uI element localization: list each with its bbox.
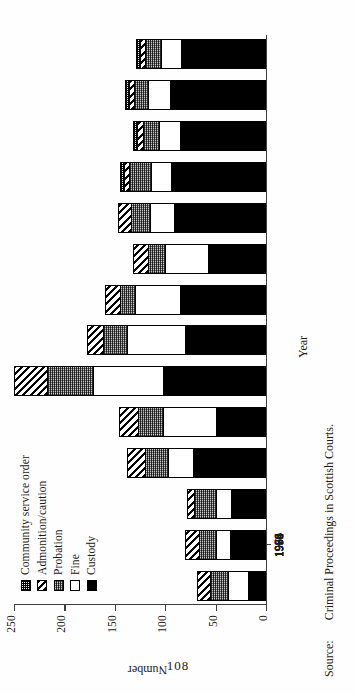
legend-item-2: Probation (51, 455, 67, 591)
bar-segment-probation (194, 489, 215, 519)
legend-item-4: Custody (84, 455, 100, 591)
page-number: 108 (0, 658, 356, 674)
bar-segment-custody (174, 203, 266, 233)
y-tick-label-200: 200 (56, 615, 68, 633)
bar-segment-probation (210, 571, 228, 601)
y-tick-label-50: 50 (208, 615, 220, 627)
legend-swatch-probation (54, 580, 64, 591)
bar-segment-fine (165, 244, 207, 274)
source-text: Criminal Proceedings in Scottish Courts. (322, 424, 336, 620)
bar-segment-probation (138, 407, 163, 437)
bar-segment-probation (134, 80, 148, 110)
y-tick-200: 200 (64, 605, 65, 611)
bar-segment-custody (231, 489, 266, 519)
bar-segment-admonition (187, 489, 194, 519)
bar-segment-custody (208, 244, 266, 274)
bar-segment-admonition (127, 448, 145, 478)
bar-segment-probation (143, 121, 159, 151)
y-tick-50: 50 (216, 605, 217, 611)
bar-segment-custody (180, 121, 266, 151)
bar-segment-probation (145, 448, 168, 478)
bar-segment-fine (150, 203, 174, 233)
bar-segment-admonition (133, 244, 148, 274)
bar-segment-fine (216, 489, 231, 519)
bar-segment-custody (193, 448, 266, 478)
x-axis-line (266, 35, 267, 605)
bar-segment-admonition (185, 530, 199, 560)
bar-segment-custody (180, 285, 266, 315)
legend-swatch-admonition (37, 580, 47, 591)
bar-1994 (14, 39, 266, 69)
bar-1970 (14, 366, 266, 396)
bar-segment-custody (170, 80, 266, 110)
legend-label-3: Fine (68, 554, 84, 575)
bar-segment-fine (168, 448, 193, 478)
rotated-figure-wrapper: 050100150200250 195019541958196219661970… (8, 17, 348, 677)
bar-segment-admonition (14, 366, 47, 396)
y-tick-0: 0 (266, 605, 267, 611)
bar-segment-probation (47, 366, 92, 396)
legend-item-0: Community service order (18, 455, 34, 591)
legend-swatch-cso (21, 580, 31, 591)
bar-segment-admonition (87, 325, 103, 355)
legend-label-2: Probation (51, 529, 67, 575)
y-tick-150: 150 (115, 605, 116, 611)
bar-segment-fine (163, 407, 215, 437)
x-tick-1994 (266, 544, 271, 545)
bar-segment-custody (248, 571, 266, 601)
bar-1990 (14, 162, 266, 192)
legend-label-1: Admonition/caution (35, 481, 51, 575)
bar-segment-custody (181, 39, 266, 69)
y-axis-line (14, 604, 266, 605)
x-tick-label-1994: 1994 (274, 533, 286, 557)
bar-segment-admonition (197, 571, 209, 601)
bar-segment-custody (216, 407, 266, 437)
x-axis-title: Year (296, 17, 311, 677)
bar-segment-custody (185, 325, 266, 355)
bar-segment-custody (230, 530, 266, 560)
bar-1982 (14, 244, 266, 274)
book-page: 050100150200250 195019541958196219661970… (0, 0, 356, 694)
legend-label-0: Community service order (18, 455, 34, 575)
chart-legend: Community service orderAdmonition/cautio… (18, 455, 101, 591)
bar-1986 (14, 203, 266, 233)
y-tick-label-100: 100 (157, 615, 169, 633)
legend-label-4: Custody (84, 536, 100, 575)
bar-segment-probation (145, 39, 161, 69)
bar-segment-fine (148, 80, 170, 110)
bar-segment-admonition (119, 407, 138, 437)
bar-segment-custody (171, 162, 266, 192)
bar-segment-fine (228, 571, 248, 601)
bar-segment-custody (163, 366, 266, 396)
bar-segment-fine (93, 366, 164, 396)
bar-segment-fine (161, 39, 181, 69)
y-tick-label-150: 150 (107, 615, 119, 633)
y-tick-250: 250 (14, 605, 15, 611)
bar-segment-fine (216, 530, 230, 560)
bar-segment-probation (148, 244, 165, 274)
bar-segment-probation (199, 530, 215, 560)
y-tick-label-250: 250 (6, 615, 18, 633)
legend-swatch-fine (70, 580, 80, 591)
bar-segment-probation (103, 325, 127, 355)
bar-1966 (14, 407, 266, 437)
bar-segment-fine (127, 325, 185, 355)
bar-segment-probation (120, 285, 135, 315)
legend-item-3: Fine (68, 455, 84, 591)
bar-1993 (14, 80, 266, 110)
y-tick-100: 100 (165, 605, 166, 611)
bar-segment-fine (151, 162, 171, 192)
legend-swatch-custody (87, 580, 97, 591)
stacked-bar-chart-figure: 050100150200250 195019541958196219661970… (8, 17, 348, 677)
bar-segment-admonition (118, 203, 131, 233)
bar-segment-probation (131, 203, 150, 233)
bar-segment-fine (135, 285, 180, 315)
source-note: Source:Criminal Proceedings in Scottish … (322, 424, 337, 677)
bar-segment-admonition (105, 285, 120, 315)
bar-1978 (14, 285, 266, 315)
bar-segment-probation (129, 162, 151, 192)
bar-segment-fine (159, 121, 180, 151)
legend-item-1: Admonition/caution (35, 455, 51, 591)
bar-1974 (14, 325, 266, 355)
y-tick-label-0: 0 (258, 615, 270, 621)
